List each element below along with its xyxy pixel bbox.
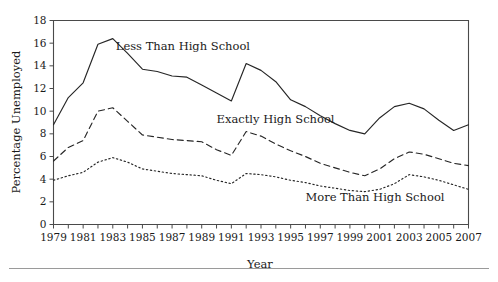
series-line-dotted bbox=[54, 158, 469, 192]
unemployment-line-chart: 024681012141618 197919811983198519871989… bbox=[0, 0, 498, 282]
y-axis-ticks bbox=[50, 21, 54, 225]
y-tick-label: 8 bbox=[40, 127, 47, 139]
figure-root: 024681012141618 197919811983198519871989… bbox=[0, 0, 498, 282]
x-tick-label: 1979 bbox=[40, 231, 67, 243]
y-tick-label: 4 bbox=[40, 173, 47, 185]
series-label-dotted: More Than High School bbox=[305, 190, 444, 204]
x-tick-label: 1987 bbox=[159, 231, 186, 243]
y-tick-label: 14 bbox=[33, 59, 47, 71]
x-tick-label: 1989 bbox=[188, 231, 215, 243]
x-tick-label: 1997 bbox=[307, 231, 334, 243]
y-tick-label: 16 bbox=[33, 37, 47, 49]
x-tick-label: 1981 bbox=[70, 231, 97, 243]
y-tick-label: 10 bbox=[33, 105, 46, 117]
x-tick-label: 1985 bbox=[129, 231, 156, 243]
x-tick-label: 2005 bbox=[425, 231, 452, 243]
x-tick-label: 2003 bbox=[396, 231, 423, 243]
y-tick-label: 0 bbox=[40, 218, 47, 230]
series-label-solid: Less Than High School bbox=[116, 39, 251, 53]
y-tick-label: 18 bbox=[33, 14, 46, 26]
x-tick-label: 1995 bbox=[277, 231, 304, 243]
x-tick-label: 1999 bbox=[337, 231, 364, 243]
x-tick-label: 1991 bbox=[218, 231, 245, 243]
x-tick-label: 2007 bbox=[455, 231, 482, 243]
y-axis-title: Percentage Unemployed bbox=[9, 50, 23, 194]
series-label-dashed: Exactly High School bbox=[217, 112, 335, 126]
footer-divider bbox=[9, 268, 489, 269]
y-tick-label: 12 bbox=[33, 82, 46, 94]
x-tick-label: 2001 bbox=[366, 231, 393, 243]
y-axis-tick-labels: 024681012141618 bbox=[33, 14, 47, 230]
x-tick-label: 1993 bbox=[248, 231, 275, 243]
x-tick-label: 1983 bbox=[99, 231, 126, 243]
y-tick-label: 2 bbox=[40, 195, 47, 207]
y-tick-label: 6 bbox=[40, 150, 47, 162]
series-annotations: Less Than High SchoolExactly High School… bbox=[116, 39, 445, 204]
x-axis-ticks bbox=[54, 225, 469, 229]
x-axis-tick-labels: 1979198119831985198719891991199319951997… bbox=[40, 231, 482, 243]
